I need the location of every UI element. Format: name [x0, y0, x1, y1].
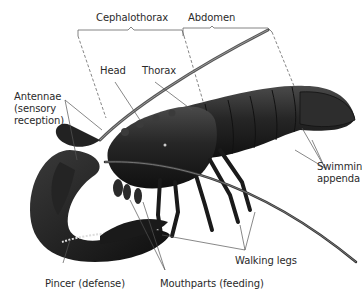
label-antennae-line1: Antennae	[14, 91, 64, 103]
abdomen-bracket	[183, 26, 294, 86]
label-head: Head	[100, 65, 126, 77]
label-antennae: Antennae (sensory reception)	[14, 91, 64, 127]
label-cephalothorax: Cephalothorax	[96, 12, 168, 24]
label-thorax: Thorax	[142, 65, 176, 77]
label-antennae-line2: (sensory	[14, 103, 64, 115]
label-swimming-line1: Swimmin	[317, 161, 362, 173]
label-mouthparts: Mouthparts (feeding)	[160, 278, 264, 290]
label-swimming-line2: appenda	[317, 173, 362, 185]
label-pincer: Pincer (defense)	[45, 278, 125, 290]
label-walking-legs: Walking legs	[235, 255, 297, 267]
label-swimming-appendages: Swimmin appenda	[317, 161, 362, 185]
label-antennae-line3: reception)	[14, 115, 64, 127]
small-claw	[56, 124, 100, 147]
label-abdomen: Abdomen	[188, 12, 235, 24]
